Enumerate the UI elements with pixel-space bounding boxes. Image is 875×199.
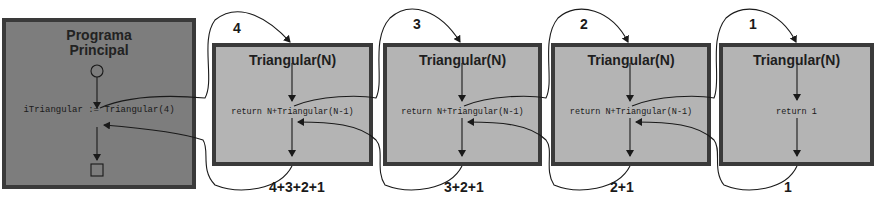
end-node-icon	[91, 164, 103, 176]
flow-arrows	[0, 0, 875, 199]
start-node-icon	[91, 65, 103, 77]
